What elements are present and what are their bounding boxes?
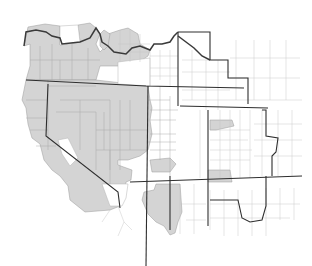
boundary-north-east	[178, 36, 210, 60]
border-east-ks	[262, 110, 278, 176]
pocket-idaho-south	[118, 58, 150, 86]
region-colorado-west	[210, 120, 234, 130]
region-utah-south	[150, 158, 176, 172]
border-wyoming	[178, 32, 248, 104]
shaded-regions	[22, 23, 234, 235]
map-container	[0, 0, 312, 266]
region-arizona-west	[142, 184, 182, 235]
choropleth-map	[0, 0, 312, 266]
border-co-north	[180, 106, 268, 108]
